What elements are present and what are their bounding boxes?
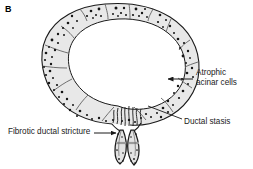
figure-panel-b: B bbox=[0, 0, 253, 169]
right-dilated-duct bbox=[128, 130, 139, 165]
acinar-lobule-ring bbox=[42, 4, 199, 126]
callout-fibrotic-ductal-stricture: Fibrotic ductal stricture bbox=[8, 127, 90, 137]
left-duct-neck bbox=[112, 124, 120, 131]
callout-atrophic-acinar-cells: Atrophic acinar cells bbox=[196, 68, 237, 88]
left-dilated-duct bbox=[115, 130, 126, 164]
callout-ductal-stasis: Ductal stasis bbox=[184, 117, 230, 127]
